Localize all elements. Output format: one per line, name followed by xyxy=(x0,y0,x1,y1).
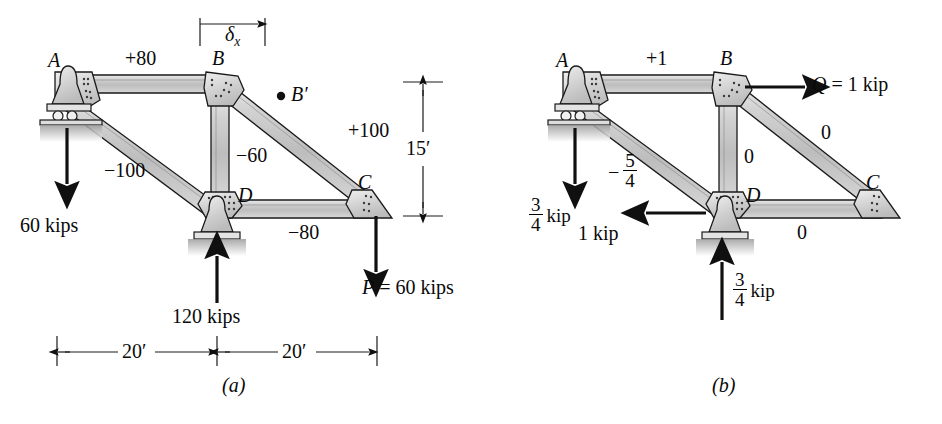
reaction-label-D-horizontal-b: 1 kip xyxy=(578,223,619,243)
member-force-BC: +100 xyxy=(348,120,389,140)
joint-label-D-b: D xyxy=(746,185,760,205)
fraction-numerator: 3 xyxy=(529,195,543,214)
joint-gusset-C xyxy=(346,190,392,218)
member-force-AD-b: − 5 4 xyxy=(608,152,637,192)
fraction-denominator: 4 xyxy=(733,289,747,309)
reaction-label-A-b: 3 4 kip xyxy=(529,196,571,236)
reaction-label-D-vertical-b: 3 4 kip xyxy=(733,271,775,311)
member-force-BD: −60 xyxy=(236,145,267,165)
load-label-120kips: 120 kips xyxy=(172,306,240,326)
load-label-60kips: 60 kips xyxy=(20,215,78,235)
joint-label-C: C xyxy=(358,172,371,192)
joint-gusset-C-b xyxy=(854,190,900,218)
joint-label-B-b: B xyxy=(720,48,732,68)
member-force-DC: −80 xyxy=(288,222,319,242)
joint-label-B: B xyxy=(212,48,224,68)
fraction-denominator: 4 xyxy=(623,170,637,190)
unit-label: kip xyxy=(547,206,571,225)
dimension-label-span-right: 20′ xyxy=(282,341,306,361)
virtual-load-label-Q: Q = 1 kip xyxy=(812,74,888,94)
panel-a-caption: (a) xyxy=(222,375,245,395)
minus-sign: − xyxy=(608,162,619,182)
member-force-BC-b: 0 xyxy=(821,122,831,142)
joint-label-B-prime: B′ xyxy=(291,84,308,104)
joint-label-A-b: A xyxy=(556,50,568,70)
fraction-numerator: 5 xyxy=(623,151,637,170)
point-B-prime-dot xyxy=(277,92,285,100)
member-BD-b xyxy=(719,92,737,205)
panel-b-truss xyxy=(548,66,900,320)
member-force-BD-b: 0 xyxy=(744,146,754,166)
dimension-spans-20ft xyxy=(57,336,377,366)
load-label-P-60kips: P = 60 kips xyxy=(362,277,454,297)
member-force-AB-b: +1 xyxy=(646,48,667,68)
fraction-numerator: 3 xyxy=(733,270,747,289)
joint-label-A: A xyxy=(48,50,60,70)
dimension-label-15ft: 15′ xyxy=(406,138,430,158)
member-BD xyxy=(211,92,229,205)
member-force-DC-b: 0 xyxy=(797,222,807,242)
joint-label-D: D xyxy=(238,185,252,205)
dimension-label-deltax: δx xyxy=(225,24,240,49)
unit-label: kip xyxy=(751,281,775,300)
joint-label-C-b: C xyxy=(866,172,879,192)
fraction-denominator: 4 xyxy=(529,214,543,234)
panel-b-caption: (b) xyxy=(712,375,735,395)
member-force-AB: +80 xyxy=(125,48,156,68)
member-force-AD: −100 xyxy=(104,160,145,180)
dimension-label-span-left: 20′ xyxy=(122,341,146,361)
